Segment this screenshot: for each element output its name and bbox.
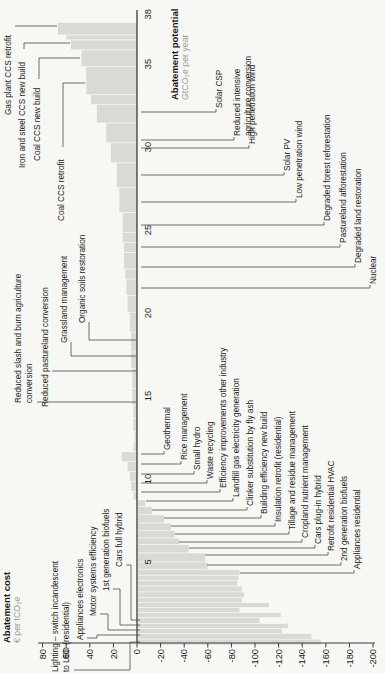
measure-label: Appliances residential	[353, 489, 362, 569]
cost-tick-label: 0	[132, 649, 142, 654]
measure-label: Waste recycling	[206, 421, 215, 479]
measure-label: Insulation retrofit (residential)	[274, 416, 283, 522]
cost-tick-label: -120	[274, 649, 284, 668]
measure-label: Reduced pastureland conversion	[41, 287, 50, 407]
leader-line	[141, 451, 164, 454]
abatement-bar	[106, 123, 137, 142]
measure-label: Efficiency improvements other industry	[219, 347, 228, 488]
cost-tick-label: -60	[203, 649, 213, 662]
potential-tick-label: 15	[143, 391, 153, 401]
leader-line	[89, 322, 136, 340]
leader-line	[152, 507, 247, 510]
abatement-bar	[138, 570, 240, 575]
abatement-bar	[138, 545, 189, 553]
leader-line	[141, 109, 216, 112]
abatement-bar	[138, 515, 164, 523]
measure-label: Rice management	[180, 393, 189, 460]
leader-line	[141, 244, 340, 247]
leader-line	[74, 642, 140, 670]
abatement-bar	[138, 592, 244, 597]
potential-axis-title: Abatement potential GtCO₂e per year	[169, 9, 191, 100]
measure-label: Clinker substitution by fly ash	[246, 400, 255, 506]
abatement-bar	[131, 333, 137, 352]
measure-label: Gas plant CCS retrofit	[4, 34, 13, 115]
leader-line	[179, 539, 302, 542]
measure-label: Degraded land restoration	[354, 168, 363, 263]
leader-line	[141, 461, 181, 464]
potential-axis-title-unit: GtCO₂e per year	[180, 9, 191, 100]
abatement-bar	[138, 603, 269, 607]
measure-label: Geothermal	[163, 407, 172, 450]
measure-label: Pastureland afforestation	[339, 152, 348, 243]
leader-line	[113, 589, 140, 625]
measure-label: Grassland management	[60, 255, 69, 343]
abatement-bar	[130, 472, 137, 481]
leader-line	[207, 562, 341, 565]
abatement-bar	[138, 598, 242, 602]
measure-label: Lighting – switch incandescent	[51, 560, 60, 672]
measure-label: Iron and steel CCS new build	[18, 62, 27, 168]
abatement-bar	[123, 233, 137, 242]
abatement-bar	[117, 163, 137, 187]
abatement-bar	[138, 629, 282, 633]
measure-label: Cars full hybrid	[115, 512, 124, 567]
leader-line	[146, 498, 233, 501]
abatement-bar	[138, 500, 145, 506]
leader-line	[175, 531, 289, 534]
measure-label: Reduced intensive	[233, 68, 242, 136]
abatement-bar	[138, 531, 175, 538]
leader-line	[141, 285, 370, 288]
measure-label: conversion	[25, 363, 34, 403]
abatement-bar	[71, 40, 137, 49]
leader-line	[189, 545, 315, 548]
measure-label: Tillage and residue management	[288, 410, 297, 530]
cost-axis-title-unit: € per tCO₂e	[12, 572, 23, 643]
measure-label: Building efficiency new build	[260, 411, 269, 514]
measure-label: Landfill gas electricity generation	[232, 378, 241, 497]
abatement-bar	[82, 50, 138, 66]
abatement-bar	[138, 634, 312, 639]
abatement-bar	[128, 462, 137, 471]
abatement-bar	[132, 369, 137, 388]
abatement-bar	[138, 618, 260, 623]
potential-tick-label: 25	[143, 225, 153, 235]
measure-label: High penetration wind	[248, 64, 257, 144]
abatement-bar	[131, 352, 137, 368]
cost-tick-label: -80	[227, 649, 237, 662]
abatement-bar	[91, 95, 137, 104]
leader-line	[71, 342, 136, 356]
cost-axis-title: Abatement cost € per tCO₂e	[1, 572, 23, 643]
abatement-bar	[124, 243, 137, 252]
leader-line	[171, 523, 275, 526]
abatement-bar	[111, 143, 137, 162]
measure-label: Small hydro	[193, 426, 202, 470]
cost-tick-label: -200	[368, 649, 378, 668]
abatement-bar	[138, 576, 238, 580]
potential-tick-label: 5	[143, 559, 153, 564]
potential-tick-label: 20	[143, 308, 153, 318]
abatement-bar	[124, 253, 137, 269]
leader-line	[126, 565, 140, 620]
abatement-bar	[125, 269, 137, 278]
abatement-bar	[58, 23, 137, 35]
measure-label: Cropland nutrient management	[301, 424, 310, 538]
plot-area: 806040200-20-40-60-80-100-120-140-160-18…	[0, 0, 385, 673]
leader-line	[141, 199, 296, 202]
leader-line	[87, 635, 140, 638]
abatement-bar	[138, 608, 240, 612]
measure-label: Coal CCS new build	[33, 87, 42, 161]
leader-line	[141, 264, 355, 267]
abatement-bar	[123, 213, 137, 232]
cost-tick-label: -20	[156, 649, 166, 662]
cost-tick-label: -160	[321, 649, 331, 668]
abatement-bar	[138, 523, 171, 530]
abatement-bar	[130, 313, 137, 332]
measure-label: Organic soils restoration	[78, 234, 87, 323]
cost-tick-label: 80	[38, 649, 48, 659]
measure-label: to LED (residential)	[62, 602, 71, 672]
measure-label: Motor systems efficiency	[89, 526, 98, 616]
cost-tick-label: -140	[297, 649, 307, 668]
abatement-bar	[138, 640, 321, 645]
measure-label: Reduced slash and burn agriculture	[14, 273, 23, 403]
cost-tick-label: 20	[109, 649, 119, 659]
